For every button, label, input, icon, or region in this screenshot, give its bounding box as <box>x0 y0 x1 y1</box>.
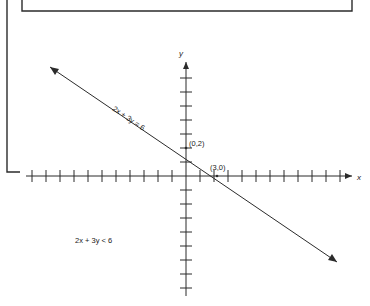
left-margin-rule <box>7 0 20 172</box>
y-intercept-point <box>185 147 188 150</box>
x-axis-arrowhead <box>345 173 352 179</box>
line-2x-3y-6 <box>50 67 337 262</box>
x-intercept-label: (3,0) <box>210 163 226 172</box>
line-arrowhead-end <box>328 254 337 262</box>
top-cropped-box <box>22 0 352 11</box>
graph-page: y x (0,2) (3,0) 2x + 3y = 6 2x + 3y < 6 <box>0 0 370 306</box>
y-axis-arrowhead <box>183 62 189 69</box>
line-arrowhead-start <box>50 67 59 75</box>
y-intercept-label: (0,2) <box>189 139 205 148</box>
inequality-label: 2x + 3y < 6 <box>75 236 112 245</box>
x-axis-label: x <box>356 173 362 182</box>
y-axis-label: y <box>178 49 184 58</box>
line-equation-label: 2x + 3y = 6 <box>111 104 147 132</box>
x-intercept-point <box>216 175 219 178</box>
coordinate-plane-figure: y x (0,2) (3,0) 2x + 3y = 6 2x + 3y < 6 <box>0 0 370 306</box>
